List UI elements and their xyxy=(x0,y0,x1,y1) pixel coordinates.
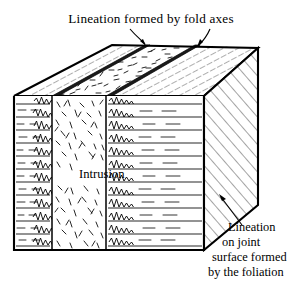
figure-title: Lineation formed by fold axes xyxy=(68,11,233,26)
caption-line-4: by the foliation xyxy=(208,265,284,279)
caption-line-3: surface formed xyxy=(212,250,287,264)
caption-line-2: on joint xyxy=(222,235,261,249)
fold-axis-arrows xyxy=(130,29,210,47)
block-diagram: Lineation formed by fold axes xyxy=(0,0,302,292)
figure-canvas: Lineation formed by fold axes xyxy=(0,0,302,292)
caption-line-1: Lineation xyxy=(228,220,275,234)
intrusion-label: Intrusion xyxy=(79,167,125,181)
